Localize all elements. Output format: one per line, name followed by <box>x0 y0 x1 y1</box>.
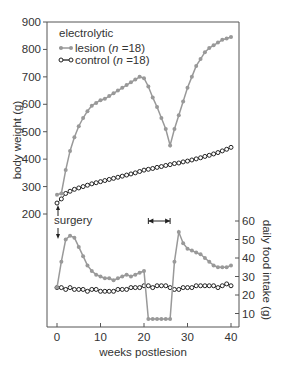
bw-control-series-point <box>229 145 233 149</box>
fi-lesion-series-point <box>159 317 163 321</box>
fi-lesion-series-point <box>216 265 220 269</box>
fi-lesion-series-point <box>68 234 72 238</box>
fi-control-series-point <box>181 286 185 290</box>
fi-control-series-point <box>203 284 207 288</box>
bw-lesion-series-point <box>138 75 142 79</box>
fi-control-series-point <box>77 287 81 291</box>
fi-lesion-series-point <box>168 317 172 321</box>
fi-lesion-series-point <box>142 269 146 273</box>
control-marker-icon <box>59 58 63 62</box>
bw-lesion-series-point <box>199 57 203 61</box>
plot-area <box>55 35 233 321</box>
up-arrow-icon <box>56 205 60 210</box>
fi-lesion-series-point <box>207 260 211 264</box>
bw-control-series-point <box>133 171 137 175</box>
fi-lesion-series-point <box>212 263 216 267</box>
bw-lesion-series-point <box>107 94 111 98</box>
bw-control-series-point <box>64 191 68 195</box>
fi-control-series-point <box>199 284 203 288</box>
bw-lesion-series-point <box>125 83 129 87</box>
bw-control-series-point <box>155 165 159 169</box>
bw-control-series-point <box>203 154 207 158</box>
bw-control-series-point <box>199 156 203 160</box>
fi-lesion-series-point <box>112 278 116 282</box>
bw-lesion-series-point <box>64 168 68 172</box>
x-axis-ticks: 010203040 <box>54 323 238 343</box>
left-tick-label: 400 <box>22 153 41 165</box>
left-tick-label: 800 <box>22 43 41 55</box>
fi-control-series-point <box>194 284 198 288</box>
fi-lesion-series-point <box>107 276 111 280</box>
left-tick-label: 200 <box>22 208 41 220</box>
bw-lesion-series-point <box>225 36 229 40</box>
bw-control-series-point <box>186 159 190 163</box>
bw-control-series-point <box>220 149 224 153</box>
fi-control-series-point <box>59 286 63 290</box>
fi-control-series-point <box>159 284 163 288</box>
bw-control-series-point <box>138 169 142 173</box>
legend-entry-lesion: lesion (n =18) <box>59 42 145 54</box>
right-tick-label: 30 <box>242 271 255 283</box>
bw-lesion-series-point <box>151 95 155 99</box>
x-tick-label: 20 <box>138 331 151 343</box>
fi-lesion-series-point <box>190 249 194 253</box>
left-tick-label: 700 <box>22 71 41 83</box>
fi-control-series-point <box>168 286 172 290</box>
bw-control-series-point <box>125 173 129 177</box>
fi-lesion-series-point <box>146 317 150 321</box>
bw-lesion-series-point <box>103 97 107 101</box>
bw-control-series-point <box>77 186 81 190</box>
fi-lesion-series-point <box>199 252 203 256</box>
bw-control-series-point <box>107 177 111 181</box>
fi-lesion-series-point <box>94 273 98 277</box>
bw-control-series-point <box>129 172 133 176</box>
fi-lesion-series-point <box>229 263 233 267</box>
fi-control-series-point <box>186 286 190 290</box>
fi-control-series-point <box>112 289 116 293</box>
surgery-annotation: surgery <box>54 205 93 239</box>
fi-control-series-point <box>129 286 133 290</box>
fi-control-series-point <box>190 286 194 290</box>
left-tick-label: 300 <box>22 181 41 193</box>
fi-control-series-point <box>212 284 216 288</box>
down-arrow-icon <box>56 234 60 239</box>
bw-control-series-point <box>68 189 72 193</box>
bw-lesion-series-point <box>55 193 59 197</box>
fi-lesion-series-point <box>120 275 124 279</box>
fi-lesion-series-point <box>203 256 207 260</box>
bw-lesion-series-point <box>90 104 94 108</box>
fi-control-series-point <box>94 287 98 291</box>
bw-lesion-series-point <box>190 75 194 79</box>
bw-lesion-series-point <box>129 80 133 84</box>
fi-lesion-series-point <box>138 271 142 275</box>
bw-control-series-point <box>216 151 220 155</box>
fi-lesion-series-point <box>85 263 89 267</box>
fi-lesion-series-point <box>72 236 76 240</box>
surgery-label: surgery <box>54 214 93 226</box>
bw-control-series-point <box>194 157 198 161</box>
bw-lesion-series-point <box>186 86 190 90</box>
bw-lesion-series-point <box>85 109 89 113</box>
fi-lesion-series-point <box>133 273 137 277</box>
bw-lesion-series-point <box>81 116 85 120</box>
fi-control-series-point <box>138 286 142 290</box>
fi-control-series-point <box>81 287 85 291</box>
bw-lesion-series-point <box>59 191 63 195</box>
fi-lesion-series-point <box>59 260 63 264</box>
bw-control-series-point <box>120 174 124 178</box>
fi-control-series-point <box>229 284 233 288</box>
fi-lesion-series-point <box>164 317 168 321</box>
bw-lesion-series-point <box>216 41 220 45</box>
fi-lesion-series-point <box>81 254 85 258</box>
fi-control-series-point <box>133 286 137 290</box>
bw-control-series <box>55 145 233 205</box>
fi-control-series-point <box>99 289 103 293</box>
bw-lesion-series-point <box>99 98 103 102</box>
x-tick-label: 0 <box>54 331 60 343</box>
fi-control-series-point <box>207 284 211 288</box>
fi-lesion-series-point <box>99 275 103 279</box>
legend-title: electrolytic <box>59 27 114 39</box>
fi-lesion-series-point <box>220 265 224 269</box>
bw-control-series-point <box>181 160 185 164</box>
x-tick-label: 10 <box>94 331 107 343</box>
